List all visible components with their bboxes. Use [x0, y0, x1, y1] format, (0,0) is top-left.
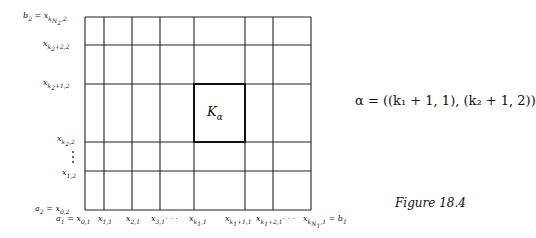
y-label-a2: a2 = x0,2 — [35, 204, 69, 215]
x-label-x21: x2,1 — [126, 214, 140, 225]
cell-label-k-alpha: Kα — [207, 104, 223, 122]
vertical-ellipsis-dot — [72, 156, 74, 158]
x-label-x11: x1,1 — [98, 214, 112, 225]
y-label-xk2: xk2,2 — [57, 134, 75, 147]
x-label-x31: x3,1· · · — [151, 214, 178, 225]
figure-caption: Figure 18.4 — [395, 196, 466, 210]
vertical-ellipsis-dot — [72, 151, 74, 153]
x-label-a1: a1 = x0,1 — [56, 214, 90, 225]
x-label-xk1: xk1,1 — [189, 214, 207, 227]
y-label-xk2p2: xk2+2,2 — [43, 39, 70, 52]
y-label-x12: x1,2 — [62, 168, 76, 179]
x-label-xk1p2: xk1+2,1· · · — [256, 214, 295, 227]
y-label-b2: b2 = xkN2,2 — [23, 11, 67, 26]
vertical-ellipsis-dot — [72, 161, 74, 163]
x-label-xk1p1: xk1+1,1 — [225, 214, 252, 227]
alpha-equation: α = ((k₁ + 1, 1), (k₂ + 1, 2)) — [355, 93, 536, 108]
x-label-b1: xkN1,1 = b1 — [303, 214, 347, 229]
y-label-xk2p1: xk2+1,2 — [43, 78, 70, 91]
